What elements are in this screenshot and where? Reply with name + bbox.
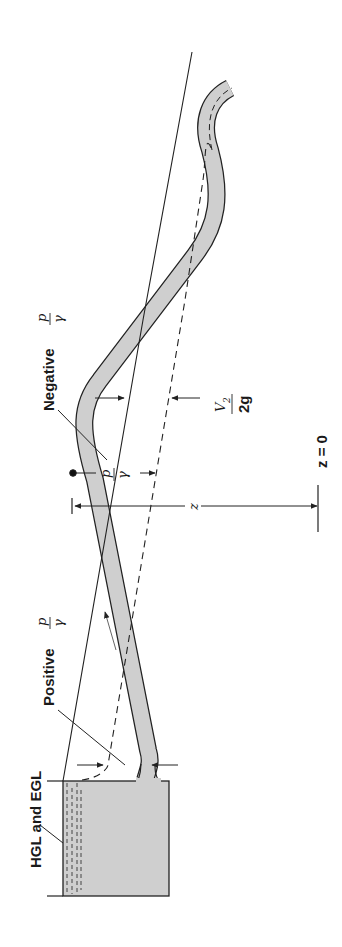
hgl-egl-diagram: HGL and EGL Positive p γ Negative p γ p … (0, 0, 342, 947)
label-positive-p-gamma: Positive p γ (34, 617, 66, 706)
svg-text:p: p (34, 313, 49, 322)
svg-text:z = 0: z = 0 (313, 435, 330, 468)
label-z: z (186, 503, 201, 511)
svg-text:HGL and EGL: HGL and EGL (27, 771, 44, 868)
svg-text:2g: 2g (235, 395, 252, 413)
svg-text:γ: γ (115, 471, 130, 479)
label-z-equals-zero: z = 0 (313, 435, 330, 468)
label-hgl-egl: HGL and EGL (27, 771, 44, 868)
label-velocity-head: V 2 2g (213, 394, 252, 414)
label-negative-p-gamma: Negative p γ (34, 313, 66, 411)
reservoir (47, 781, 169, 896)
svg-text:z: z (186, 503, 201, 511)
svg-text:p: p (34, 617, 49, 626)
svg-text:Positive: Positive (40, 648, 57, 706)
svg-text:Negative: Negative (40, 348, 57, 411)
svg-text:p: p (98, 469, 113, 478)
svg-text:γ: γ (51, 315, 66, 323)
svg-text:2: 2 (222, 397, 232, 404)
egl-line (82, 143, 212, 780)
svg-text:γ: γ (51, 619, 66, 627)
pipe (84, 88, 232, 784)
